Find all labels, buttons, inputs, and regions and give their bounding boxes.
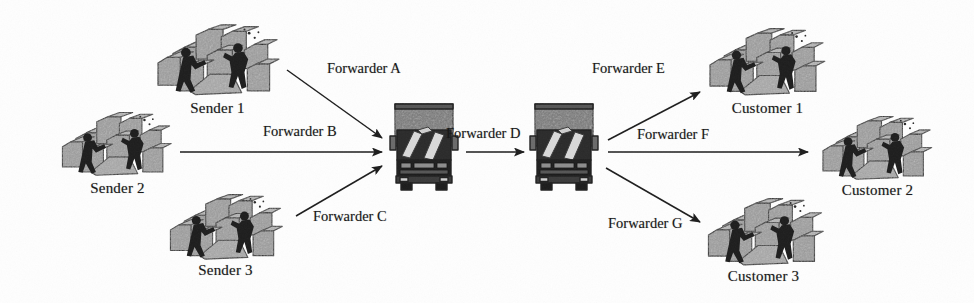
diagram-canvas: Sender 1Sender 2Sender 3Customer 1Custom… <box>0 0 974 303</box>
delivery-truck-icon <box>530 104 598 190</box>
node-label-customer3: Customer 3 <box>696 268 831 285</box>
warehouse-workers-boxes-icon <box>170 195 282 260</box>
nodes-layer <box>0 0 974 303</box>
warehouse-workers-boxes-icon <box>708 199 823 265</box>
node-label-customer1: Customer 1 <box>700 100 835 117</box>
edge-label-fwdB: Forwarder B <box>263 123 337 140</box>
edge-label-fwdG: Forwarder G <box>608 215 683 232</box>
warehouse-workers-boxes-icon <box>823 117 932 180</box>
edge-label-fwdA: Forwarder A <box>327 60 401 77</box>
node-label-sender1: Sender 1 <box>150 100 285 117</box>
warehouse-workers-boxes-icon <box>62 113 171 176</box>
edge-label-fwdD: Forwarder D <box>446 125 521 142</box>
edge-label-fwdC: Forwarder C <box>313 208 387 225</box>
node-label-sender3: Sender 3 <box>158 262 293 279</box>
warehouse-workers-boxes-icon <box>158 25 279 95</box>
edge-label-fwdE: Forwarder E <box>592 60 665 77</box>
node-label-customer2: Customer 2 <box>810 182 945 199</box>
edge-label-fwdF: Forwarder F <box>637 126 709 143</box>
node-label-sender2: Sender 2 <box>50 180 185 197</box>
delivery-truck-icon <box>390 104 458 190</box>
warehouse-workers-boxes-icon <box>710 29 825 95</box>
